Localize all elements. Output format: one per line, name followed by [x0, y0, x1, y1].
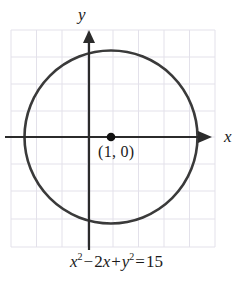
equation-coefficient-2: 2 — [94, 252, 103, 271]
y-axis — [83, 30, 95, 250]
equation-caption: x2−2x+y2=15 — [0, 253, 233, 270]
equation-right-hand-side: 15 — [146, 252, 163, 271]
center-point-label: (1, 0) — [98, 144, 134, 160]
equation-minus-operator: − — [83, 252, 95, 271]
equation-equals-operator: = — [134, 252, 146, 271]
center-point-dot — [107, 133, 116, 142]
equation-plus-operator: + — [110, 252, 122, 271]
equation-term-x-squared-base: x — [70, 252, 78, 271]
circle-graph-figure: y x (1, 0) x2−2x+y2=15 — [0, 0, 243, 287]
x-axis-label: x — [224, 128, 232, 145]
y-axis-label: y — [78, 6, 86, 23]
x-axis-arrowhead — [198, 131, 212, 143]
y-axis-arrowhead — [83, 30, 95, 43]
equation-exponent-1: 2 — [78, 251, 83, 262]
